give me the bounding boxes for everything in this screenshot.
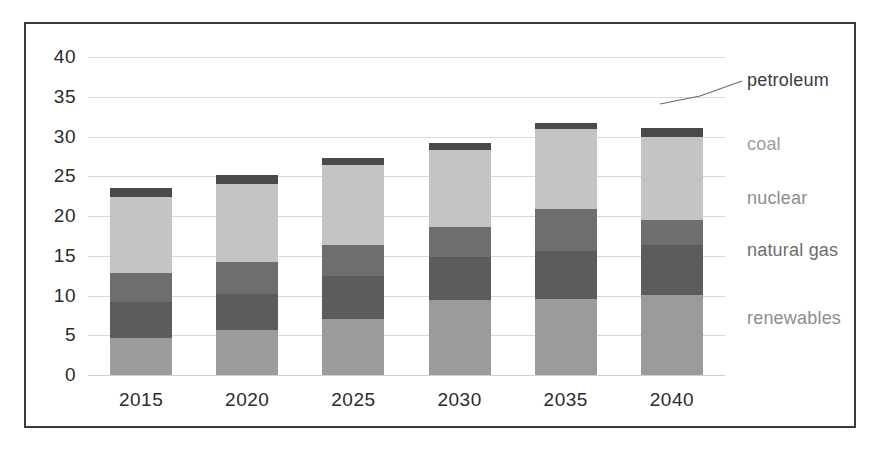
bar-segment-natural-gas[interactable] [216,294,278,330]
bar-segment-nuclear[interactable] [216,262,278,294]
bar-segment-natural-gas[interactable] [429,257,491,300]
series-label-petroleum: petroleum [747,70,829,91]
bar-segment-coal[interactable] [110,197,172,273]
bar-segment-coal[interactable] [641,137,703,220]
stacked-bar[interactable] [429,143,491,375]
gridline [88,335,725,336]
series-label-renewables: renewables [747,308,841,329]
series-label-natural-gas: natural gas [747,240,838,261]
bar-segment-petroleum[interactable] [641,128,703,138]
bar-segment-natural-gas[interactable] [535,251,597,299]
bar-segment-renewables[interactable] [216,330,278,375]
gridline [88,176,725,177]
x-axis-tick-label: 2020 [225,389,269,411]
bar-segment-renewables[interactable] [535,299,597,375]
stacked-bar[interactable] [322,158,384,375]
bar-segment-coal[interactable] [322,165,384,245]
x-axis-tick-label: 2025 [331,389,375,411]
bar-segment-nuclear[interactable] [535,209,597,251]
bar-segment-petroleum[interactable] [429,143,491,150]
gridline [88,57,725,58]
x-axis-tick-label: 2015 [119,389,163,411]
bar-segment-renewables[interactable] [110,338,172,375]
x-axis-tick-label: 2040 [650,389,694,411]
bar-segment-renewables[interactable] [322,319,384,375]
bar-segment-natural-gas[interactable] [641,245,703,295]
gridline [88,296,725,297]
bar-segment-renewables[interactable] [429,300,491,375]
stacked-bar[interactable] [216,175,278,375]
gridline [88,97,725,98]
gridline [88,256,725,257]
gridline [88,375,725,376]
y-axis-tick-label: 5 [65,324,76,346]
bar-segment-natural-gas[interactable] [322,276,384,318]
bar-segment-petroleum[interactable] [110,188,172,197]
bar-segment-nuclear[interactable] [641,220,703,245]
bar-segment-nuclear[interactable] [429,227,491,257]
bar-segment-petroleum[interactable] [216,175,278,185]
bar-segment-nuclear[interactable] [322,245,384,277]
stacked-bar[interactable] [641,128,703,375]
gridline [88,137,725,138]
y-axis-tick-label: 0 [65,364,76,386]
y-axis-tick-label: 25 [54,165,76,187]
y-axis-tick-label: 35 [54,86,76,108]
chart-frame: 0510152025303540 20152020202520302035204… [24,22,856,428]
y-axis-tick-label: 20 [54,205,76,227]
bar-segment-nuclear[interactable] [110,273,172,302]
stacked-bar[interactable] [535,123,597,375]
plot-area: 0510152025303540 20152020202520302035204… [88,57,725,375]
chart-page: 0510152025303540 20152020202520302035204… [0,0,881,453]
y-axis-tick-label: 10 [54,285,76,307]
bar-segment-natural-gas[interactable] [110,302,172,338]
bar-segment-coal[interactable] [429,150,491,227]
y-axis-tick-label: 40 [54,46,76,68]
series-label-nuclear: nuclear [747,188,807,209]
bar-segment-petroleum[interactable] [322,158,384,165]
bar-segment-coal[interactable] [535,129,597,209]
x-axis-tick-label: 2030 [437,389,481,411]
x-axis-tick-label: 2035 [544,389,588,411]
stacked-bar[interactable] [110,188,172,375]
bar-segment-renewables[interactable] [641,295,703,375]
y-axis-tick-label: 15 [54,245,76,267]
series-label-coal: coal [747,134,781,155]
y-axis-tick-label: 30 [54,126,76,148]
bar-segment-coal[interactable] [216,184,278,262]
gridline [88,216,725,217]
